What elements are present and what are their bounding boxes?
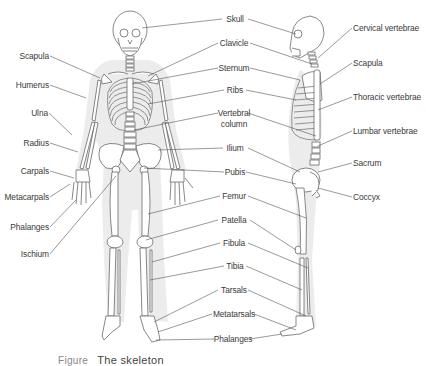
label-coccyx: Coccyx — [353, 192, 380, 202]
label-ischium: Ischium — [2, 249, 49, 259]
label-cervical-vertebrae: Cervical vertebrae — [353, 23, 419, 33]
label-clavicle: Clavicle — [212, 38, 256, 48]
label-sacrum: Sacrum — [353, 158, 381, 168]
label-fibula: Fibula — [214, 238, 254, 248]
figure-caption: Figure The skeleton — [58, 354, 164, 366]
label-sternum: Sternum — [212, 63, 256, 73]
label-vertebral-column-line2: column — [210, 119, 258, 129]
label-phalanges-foot: Phalanges — [208, 334, 258, 344]
label-skull: Skull — [215, 14, 255, 24]
label-phalanges-hand: Phalanges — [2, 222, 49, 232]
sternum-icon — [127, 78, 133, 110]
label-tarsals: Tarsals — [212, 285, 256, 295]
label-ulna: Ulna — [2, 108, 48, 118]
label-thoracic-vertebrae: Thoracic vertebrae — [353, 92, 421, 102]
label-vertebral-column-line1: Vertebral — [210, 108, 258, 118]
label-lumbar-vertebrae: Lumbar vertebrae — [353, 126, 418, 136]
label-metatarsals: Metatarsals — [206, 309, 262, 319]
figure-number: Figure — [58, 355, 88, 366]
label-pubis: Pubis — [215, 167, 255, 177]
arm-left-icon — [72, 80, 101, 205]
label-scapula: Scapula — [2, 51, 49, 61]
label-ilium: Ilium — [215, 143, 255, 153]
label-ribs: Ribs — [215, 85, 255, 95]
label-metacarpals: Metacarpals — [0, 192, 49, 202]
figure-title: The skeleton — [97, 354, 164, 366]
label-radius: Radius — [2, 138, 49, 148]
label-carpals: Carpals — [2, 166, 49, 176]
label-scapula-side: Scapula — [353, 58, 383, 68]
skull-side-icon — [290, 16, 324, 58]
label-patella: Patella — [212, 215, 256, 225]
label-humerus: Humerus — [2, 80, 49, 90]
skull-front-icon — [113, 11, 147, 56]
label-tibia: Tibia — [215, 261, 255, 271]
cervical-vertebrae-side-icon — [308, 52, 318, 67]
side-view-skeleton — [280, 16, 324, 336]
label-femur: Femur — [214, 191, 254, 201]
